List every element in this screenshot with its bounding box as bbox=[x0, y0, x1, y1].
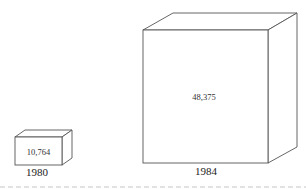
box-1980: 10,764 bbox=[15, 130, 72, 165]
box-1984: 48,375 bbox=[143, 13, 297, 163]
box-1980-value-label: 10,764 bbox=[27, 147, 51, 157]
box-1984-value-label: 48,375 bbox=[192, 92, 215, 102]
cropped-caption bbox=[0, 183, 306, 189]
year-label-1980: 1980 bbox=[26, 166, 49, 178]
box-1984-side-face bbox=[268, 13, 297, 163]
year-label-1984: 1984 bbox=[195, 165, 218, 177]
box-chart: 10,764 1980 48,375 1984 bbox=[0, 0, 306, 189]
